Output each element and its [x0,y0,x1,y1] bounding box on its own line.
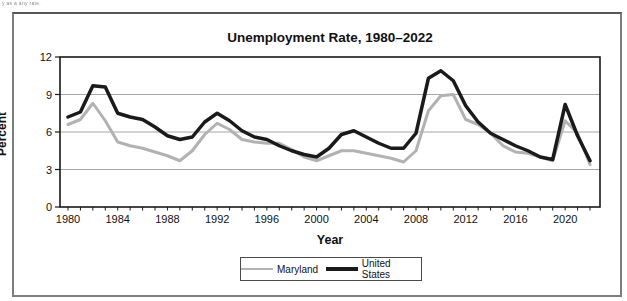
page: { "page": { "corner_note": "y as a any r… [0,0,627,301]
maryland-line-swatch [241,268,273,271]
x-axis-title: Year [60,233,600,247]
series-line-united-states [68,71,590,161]
legend-item-maryland: Maryland [241,264,318,275]
x-tick-label-1988: 1988 [155,214,179,225]
x-tick-label-2016: 2016 [503,214,527,225]
x-tick-label-2020: 2020 [553,214,577,225]
x-tick-label-2012: 2012 [453,214,477,225]
x-tick-label-2000: 2000 [304,214,328,225]
legend-item-united-states: United States [326,258,421,280]
y-tick-label-9: 9 [22,90,52,101]
plot-area [60,57,600,207]
legend-label-maryland: Maryland [277,264,318,275]
chart-figure: Unemployment Rate, 1980–2022 Percent 036… [12,12,622,297]
y-tick-label-12: 12 [22,52,52,63]
united-states-line-swatch [326,267,358,271]
y-axis-title: Percent [0,140,54,156]
series-line-maryland [68,95,590,165]
legend-label-united-states: United States [362,258,421,280]
y-tick-label-6: 6 [22,127,52,138]
y-tick-label-0: 0 [22,202,52,213]
x-tick-label-2008: 2008 [404,214,428,225]
x-tick-label-2004: 2004 [354,214,378,225]
x-tick-label-1980: 1980 [56,214,80,225]
y-tick-label-3: 3 [22,165,52,176]
cropped-caption-fragment: y as a any rate. [2,0,41,6]
x-tick-label-1996: 1996 [255,214,279,225]
line-chart-canvas [52,55,608,215]
legend-box: Maryland United States [240,257,422,281]
x-tick-label-1984: 1984 [105,214,129,225]
x-tick-label-1992: 1992 [205,214,229,225]
chart-title: Unemployment Rate, 1980–2022 [60,30,600,45]
